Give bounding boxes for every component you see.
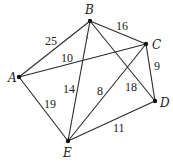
edge-weight-d-e: 11: [113, 121, 125, 135]
node-label-b: B: [84, 3, 94, 17]
node-c: [144, 42, 148, 46]
edge-d-e: [68, 101, 155, 141]
node-d: [153, 99, 157, 103]
edge-weight-a-b: 25: [45, 34, 57, 48]
edge-weight-a-e: 19: [44, 97, 56, 111]
weighted-graph-diagram: 2510191614188911 ABCDE: [0, 0, 173, 162]
node-e: [66, 139, 70, 143]
edge-weight-b-d: 18: [125, 80, 137, 94]
edge-b-e: [68, 21, 90, 141]
node-a: [17, 75, 21, 79]
edge-a-b: [19, 21, 90, 77]
node-label-d: D: [159, 96, 170, 110]
edge-weight-c-e: 8: [97, 84, 103, 98]
edge-weight-b-c: 16: [116, 19, 128, 33]
edge-weight-a-c: 10: [61, 51, 73, 65]
edge-weight-c-d: 9: [154, 59, 160, 73]
node-label-e: E: [62, 146, 72, 160]
edge-weight-b-e: 14: [63, 82, 75, 96]
node-label-c: C: [152, 38, 161, 52]
node-label-a: A: [7, 71, 17, 85]
node-b: [88, 19, 92, 23]
